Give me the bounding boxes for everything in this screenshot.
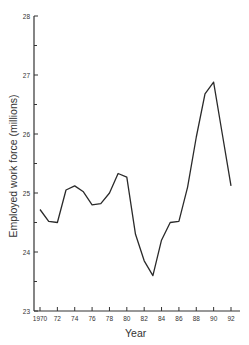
x-tick-label: 90 [210, 315, 218, 322]
x-tick-label: 92 [227, 315, 235, 322]
y-tick-label: 25 [23, 190, 31, 197]
x-tick-label: 86 [175, 315, 183, 322]
y-tick-label: 27 [23, 72, 31, 79]
y-tick-label: 24 [23, 249, 31, 256]
x-tick-label: 1970 [33, 315, 48, 322]
y-axis-title: Employed work force (millions) [7, 91, 19, 241]
x-tick-label: 74 [71, 315, 79, 322]
work-force-line [40, 82, 231, 276]
y-tick-label: 28 [23, 13, 31, 20]
x-tick-label: 78 [106, 315, 114, 322]
x-tick-label: 76 [88, 315, 96, 322]
axis-ticks: 23242526272819707274767880828486889092 [23, 13, 235, 323]
y-tick-label: 26 [23, 131, 31, 138]
x-tick-label: 84 [158, 315, 166, 322]
x-tick-label: 80 [123, 315, 131, 322]
line-chart: 23242526272819707274767880828486889092 [0, 0, 249, 345]
x-tick-label: 82 [141, 315, 149, 322]
y-tick-label: 23 [23, 308, 31, 315]
x-tick-label: 88 [193, 315, 201, 322]
chart-axes [34, 16, 240, 311]
x-tick-label: 72 [54, 315, 62, 322]
x-axis-title: Year [125, 327, 146, 339]
